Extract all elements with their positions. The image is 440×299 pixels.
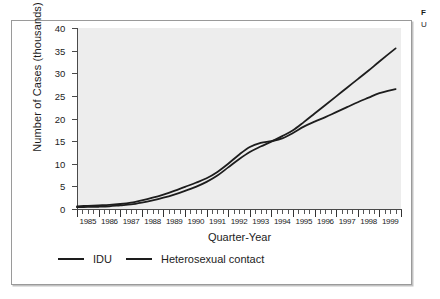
caption-title: F — [421, 7, 440, 19]
x-axis-quarter-tick — [342, 210, 343, 214]
y-axis-tick — [72, 186, 77, 187]
x-axis-quarter-tick — [239, 210, 240, 214]
x-axis-year-tick — [336, 210, 337, 217]
x-axis-quarter-tick — [234, 210, 235, 214]
x-axis-quarter-tick — [109, 210, 110, 214]
legend-label: Heterosexual contact — [161, 253, 264, 265]
x-axis-quarter-tick — [212, 210, 213, 214]
y-axis-tick — [72, 141, 77, 142]
x-axis-title: Quarter-Year — [77, 231, 402, 243]
x-axis-quarter-tick — [201, 210, 202, 214]
x-axis-year-tick — [315, 210, 316, 217]
x-axis-quarter-tick — [282, 210, 283, 214]
caption-line2: U — [421, 19, 440, 31]
legend-entry: IDU — [58, 253, 112, 265]
x-axis-quarter-tick — [363, 210, 364, 214]
x-axis-quarter-tick — [180, 210, 181, 214]
figure-caption: F U — [421, 7, 440, 31]
x-axis-quarter-tick — [288, 210, 289, 214]
x-axis-quarter-tick — [104, 210, 105, 214]
legend-label: IDU — [93, 253, 112, 265]
y-axis-line — [77, 28, 78, 210]
x-axis-year-tick — [207, 210, 208, 217]
x-axis-tick-label: 1999 — [370, 217, 410, 226]
x-axis-quarter-tick — [331, 210, 332, 214]
x-axis-year-tick — [163, 210, 164, 217]
y-axis-tick — [72, 73, 77, 74]
x-axis-quarter-tick — [131, 210, 132, 214]
x-axis-quarter-tick — [255, 210, 256, 214]
x-axis-quarter-tick — [82, 210, 83, 214]
x-axis-quarter-tick — [93, 210, 94, 214]
x-axis-year-tick — [293, 210, 294, 217]
x-axis-quarter-tick — [136, 210, 137, 214]
y-axis-tick — [72, 164, 77, 165]
x-axis-year-tick — [185, 210, 186, 217]
x-axis-quarter-tick — [261, 210, 262, 214]
x-axis-quarter-tick — [88, 210, 89, 214]
x-axis-quarter-tick — [298, 210, 299, 214]
x-axis-quarter-tick — [266, 210, 267, 214]
x-axis-year-tick — [77, 210, 78, 217]
x-axis-year-tick — [228, 210, 229, 217]
y-axis-tick-label: 0 — [25, 205, 65, 215]
y-axis-title: Number of Cases (thousands) — [31, 0, 43, 172]
x-axis-quarter-tick — [126, 210, 127, 214]
legend-line-icon — [126, 258, 152, 260]
x-axis-quarter-tick — [158, 210, 159, 214]
y-axis-tick — [72, 96, 77, 97]
x-axis-year-tick — [250, 210, 251, 217]
x-axis-quarter-tick — [352, 210, 353, 214]
x-axis-year-tick — [142, 210, 143, 217]
x-axis-quarter-tick — [374, 210, 375, 214]
x-axis-quarter-tick — [320, 210, 321, 214]
x-axis-year-tick — [401, 210, 402, 217]
y-axis-tick — [72, 28, 77, 29]
legend-line-icon — [58, 258, 84, 260]
legend-entry: Heterosexual contact — [126, 253, 264, 265]
x-axis-quarter-tick — [196, 210, 197, 214]
chart-legend: IDUHeterosexual contact — [58, 253, 278, 265]
x-axis-quarter-tick — [369, 210, 370, 214]
x-axis-quarter-tick — [147, 210, 148, 214]
x-axis-quarter-tick — [347, 210, 348, 214]
x-axis-quarter-tick — [277, 210, 278, 214]
y-axis-tick — [72, 51, 77, 52]
x-axis-quarter-tick — [244, 210, 245, 214]
x-axis-year-tick — [379, 210, 380, 217]
x-axis-quarter-tick — [304, 210, 305, 214]
x-axis-quarter-tick — [396, 210, 397, 214]
figure-frame: 0510152025303540 Number of Cases (thousa… — [11, 20, 412, 285]
x-axis-quarter-tick — [217, 210, 218, 214]
x-axis-quarter-tick — [169, 210, 170, 214]
x-axis-year-tick — [99, 210, 100, 217]
y-axis-tick-label: 5 — [25, 182, 65, 192]
x-axis-quarter-tick — [190, 210, 191, 214]
x-axis-year-tick — [271, 210, 272, 217]
x-axis-quarter-tick — [115, 210, 116, 214]
x-axis-quarter-tick — [223, 210, 224, 214]
x-axis-quarter-tick — [153, 210, 154, 214]
x-axis-year-tick — [120, 210, 121, 217]
x-axis-quarter-tick — [390, 210, 391, 214]
y-axis-tick — [72, 119, 77, 120]
x-axis-quarter-tick — [385, 210, 386, 214]
x-axis-quarter-tick — [174, 210, 175, 214]
plot-area — [77, 28, 401, 209]
x-axis-quarter-tick — [325, 210, 326, 214]
x-axis-quarter-tick — [309, 210, 310, 214]
x-axis-year-tick — [358, 210, 359, 217]
